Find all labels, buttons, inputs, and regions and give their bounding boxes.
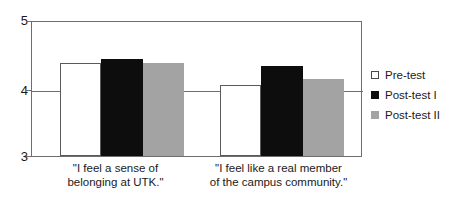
legend-label-1: Post-test I	[385, 89, 437, 101]
x-axis-category-0-line-0: "I feel a sense of	[38, 161, 193, 175]
x-axis-category-label-1: "I feel like a real memberof the campus …	[196, 161, 361, 189]
y-axis-tick-4: 4	[4, 84, 28, 97]
legend-swatch-icon-1	[371, 91, 379, 99]
bar-pre-test-group-0	[60, 63, 101, 156]
legend-swatch-icon-2	[371, 111, 379, 119]
y-axis-tick-5: 5	[4, 14, 28, 27]
legend-item-0[interactable]: Pre-test	[371, 66, 453, 83]
chart-legend: Pre-testPost-test IPost-test II	[371, 66, 453, 126]
bar-post-test-ii-group-0	[143, 63, 184, 156]
x-axis-category-1-line-1: of the campus community."	[196, 175, 361, 189]
legend-item-1[interactable]: Post-test I	[371, 86, 453, 103]
x-axis-category-label-0: "I feel a sense ofbelonging at UTK."	[38, 161, 193, 189]
legend-item-2[interactable]: Post-test II	[371, 106, 453, 123]
y-axis-tick-3: 3	[4, 150, 28, 163]
bar-pre-test-group-1	[220, 85, 261, 156]
legend-swatch-icon-0	[371, 71, 379, 79]
plot-area	[31, 21, 362, 157]
legend-label-2: Post-test II	[385, 109, 440, 121]
x-axis-category-0-line-1: belonging at UTK."	[38, 175, 193, 189]
x-axis-category-1-line-0: "I feel like a real member	[196, 161, 361, 175]
bar-post-test-i-group-1	[261, 66, 302, 156]
chart-container: 5 4 3 "I feel a sense ofbelonging at UTK…	[0, 0, 453, 199]
bar-post-test-ii-group-1	[303, 79, 344, 156]
bar-post-test-i-group-0	[101, 59, 142, 156]
legend-label-0: Pre-test	[385, 69, 425, 81]
